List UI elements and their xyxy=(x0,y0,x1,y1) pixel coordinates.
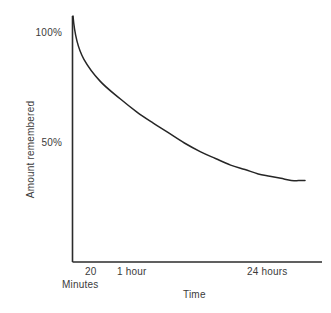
x-tick-label-1-hour: 1 hour xyxy=(117,266,147,277)
x-tick-label-minutes: Minutes xyxy=(62,279,98,290)
forgetting-curve-figure: 100% 50% Amount remembered 20 Minutes 1 … xyxy=(0,0,331,313)
y-axis-title: Amount remembered xyxy=(25,92,36,208)
retention-curve xyxy=(73,16,305,181)
y-tick-label-100: 100% xyxy=(36,27,62,38)
x-tick-label-20: 20 xyxy=(85,266,97,277)
x-tick-label-24-hours: 24 hours xyxy=(247,266,288,277)
x-axis-title: Time xyxy=(183,289,206,300)
y-tick-label-50: 50% xyxy=(41,137,62,148)
